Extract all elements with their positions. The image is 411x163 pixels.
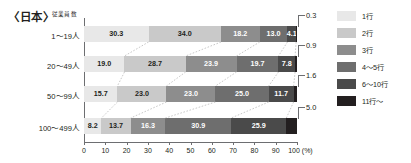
x-tick-label: 10 [101, 147, 109, 154]
x-tick [169, 142, 170, 145]
bar-segment: 11.7 [269, 86, 294, 102]
category-label: 1〜19人 [0, 30, 80, 41]
x-tick [105, 142, 106, 145]
bar-segment-value: 34.0 [178, 30, 192, 37]
legend-label: 6〜10行 [362, 79, 388, 89]
bar-segment: 25.9 [231, 118, 286, 134]
bar-segment: 19.7 [237, 56, 279, 72]
legend-item[interactable]: 3行 [337, 42, 407, 58]
legend-label: 3行 [362, 45, 373, 55]
bar-segment: 34.0 [149, 26, 221, 42]
bar-segment-value: 8.2 [88, 122, 98, 129]
bar-segment-value: 11.7 [274, 90, 288, 97]
bar-segment-value: 7.8 [282, 60, 292, 67]
x-tick [233, 142, 234, 145]
legend-swatch [337, 96, 356, 106]
bar-segment [294, 86, 297, 102]
callout-value: 0.9 [306, 41, 316, 50]
legend-swatch [337, 11, 356, 21]
bar-segment: 23.0 [166, 86, 215, 102]
bar-segment-value: 30.9 [191, 122, 205, 129]
x-tick [148, 142, 149, 145]
x-tick [191, 142, 192, 145]
x-tick [127, 142, 128, 145]
bar-segment-value: 13.7 [109, 122, 123, 129]
bar-segment: 23.9 [186, 56, 237, 72]
legend-item[interactable]: 6〜10行 [337, 76, 407, 92]
bar-segment-value: 25.0 [235, 90, 249, 97]
bar-segment-value: 23.9 [204, 60, 218, 67]
x-tick-label: 70 [229, 147, 237, 154]
legend-label: 2行 [362, 28, 373, 38]
bar-segment-value: 23.0 [135, 90, 149, 97]
bar-segment: 25.0 [215, 86, 268, 102]
category-label: 20〜49人 [0, 60, 80, 71]
y-axis-caption: 従業員数 [52, 10, 77, 18]
x-tick-label: 0 [82, 147, 86, 154]
bar-segment-value: 25.9 [252, 122, 266, 129]
legend-item[interactable]: 1行 [337, 8, 407, 24]
x-tick-label: 50 [187, 147, 195, 154]
bar-segment: 15.7 [84, 86, 117, 102]
bar-segment: 23.0 [117, 86, 166, 102]
legend-swatch [337, 79, 356, 89]
callout-leader-line [298, 75, 305, 87]
chart-container: 〈日本〉 従業員数 0102030405060708090100 (%) 30.… [0, 0, 411, 163]
callout-value: 0.3 [306, 11, 316, 20]
bar-segment: 16.3 [131, 118, 166, 134]
x-tick-label: 100 (%) [288, 147, 313, 154]
legend-item[interactable]: 4〜5行 [337, 59, 407, 75]
bar-segment-value: 30.3 [109, 30, 123, 37]
callout-value: 5.0 [306, 103, 316, 112]
bar-segment-value: 23.0 [184, 90, 198, 97]
bar-segment-value: 18.2 [233, 30, 247, 37]
legend-swatch [337, 45, 356, 55]
bar-row: 30.334.018.213.04.1 [84, 26, 297, 42]
x-tick [212, 142, 213, 145]
bar-segment-value: 28.7 [148, 60, 162, 67]
x-tick-label: 30 [144, 147, 152, 154]
page-title: 〈日本〉 [8, 8, 54, 24]
legend-label: 4〜5行 [362, 62, 384, 72]
bar-segment: 19.0 [84, 56, 124, 72]
bar-row: 15.723.023.025.011.7 [84, 86, 297, 102]
bar-segment-value: 13.0 [267, 30, 281, 37]
bar-segment: 18.2 [221, 26, 260, 42]
legend-swatch [337, 28, 356, 38]
plot-area: 30.334.018.213.04.119.028.723.919.77.815… [84, 22, 297, 142]
bar-segment: 4.1 [287, 26, 296, 42]
category-label: 100〜499人 [0, 122, 80, 133]
bar-segment-value: 19.0 [97, 60, 111, 67]
x-tick [276, 142, 277, 145]
bar-segment [295, 56, 297, 72]
x-tick-label: 90 [272, 147, 280, 154]
legend-item[interactable]: 2行 [337, 25, 407, 41]
x-tick-label: 40 [165, 147, 173, 154]
legend: 1行2行3行4〜5行6〜10行11行〜 [337, 8, 407, 110]
callout-value: 1.6 [306, 71, 316, 80]
callout-leader-line [298, 107, 305, 119]
bar-segment-value: 15.7 [94, 90, 108, 97]
legend-swatch [337, 62, 356, 72]
x-tick-label: 60 [208, 147, 216, 154]
bar-segment [286, 118, 297, 134]
legend-label: 11行〜 [362, 96, 383, 106]
callout-leader-line [298, 15, 305, 27]
legend-label: 1行 [362, 11, 373, 21]
x-tick [254, 142, 255, 145]
bar-segment-value: 19.7 [250, 60, 264, 67]
bar-segment: 30.9 [165, 118, 231, 134]
bar-row: 19.028.723.919.77.8 [84, 56, 297, 72]
x-tick [297, 142, 298, 145]
x-tick [84, 142, 85, 145]
bar-segment: 30.3 [84, 26, 149, 42]
bar-segment: 13.7 [101, 118, 130, 134]
bar-segment: 8.2 [84, 118, 101, 134]
callout-leader-line [298, 45, 305, 57]
bar-segment: 7.8 [278, 56, 295, 72]
bar-segment [296, 26, 297, 42]
bar-row: 8.213.716.330.925.9 [84, 118, 297, 134]
legend-item[interactable]: 11行〜 [337, 93, 407, 109]
bar-segment-value: 16.3 [141, 122, 155, 129]
x-tick-label: 80 [250, 147, 258, 154]
